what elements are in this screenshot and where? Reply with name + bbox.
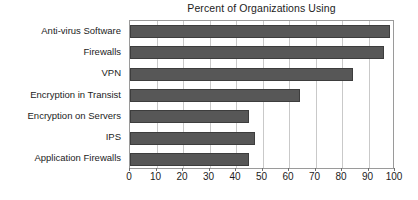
bar xyxy=(130,68,353,81)
y-axis-label: VPN xyxy=(0,68,125,78)
bars-layer xyxy=(130,21,393,168)
chart-title: Percent of Organizations Using xyxy=(129,2,394,14)
x-axis-label: 0 xyxy=(126,171,132,183)
y-axis-label: Application Firewalls xyxy=(0,153,125,163)
x-axis-label: 60 xyxy=(282,171,293,183)
y-axis-category-labels: Anti-virus SoftwareFirewallsVPNEncryptio… xyxy=(0,20,125,169)
y-axis-label: Firewalls xyxy=(0,47,125,57)
bar-row xyxy=(130,42,393,63)
bar-row xyxy=(130,127,393,148)
bar xyxy=(130,25,390,38)
bar-row xyxy=(130,149,393,169)
bar-row xyxy=(130,21,393,42)
bar xyxy=(130,132,255,145)
bar xyxy=(130,110,249,123)
x-axis-tick-labels: 0102030405060708090100 xyxy=(129,171,394,187)
bar xyxy=(130,153,249,166)
y-axis-label: Anti-virus Software xyxy=(0,26,125,36)
x-axis-label: 50 xyxy=(256,171,267,183)
x-axis-label: 20 xyxy=(176,171,187,183)
bar xyxy=(130,89,300,102)
x-axis-label: 100 xyxy=(386,171,403,183)
x-axis-label: 10 xyxy=(150,171,161,183)
x-axis-label: 30 xyxy=(203,171,214,183)
bar-row xyxy=(130,64,393,85)
y-axis-label: Encryption on Servers xyxy=(0,111,125,121)
bar-row xyxy=(130,85,393,106)
x-axis-label: 90 xyxy=(362,171,373,183)
y-axis-label: Encryption in Transist xyxy=(0,90,125,100)
y-axis-label: IPS xyxy=(0,132,125,142)
plot-area xyxy=(129,20,394,169)
bar-chart: Percent of Organizations Using Anti-viru… xyxy=(0,0,418,200)
bar xyxy=(130,46,384,59)
bar-row xyxy=(130,106,393,127)
x-axis-label: 70 xyxy=(309,171,320,183)
x-axis-label: 40 xyxy=(229,171,240,183)
x-axis-label: 80 xyxy=(335,171,346,183)
